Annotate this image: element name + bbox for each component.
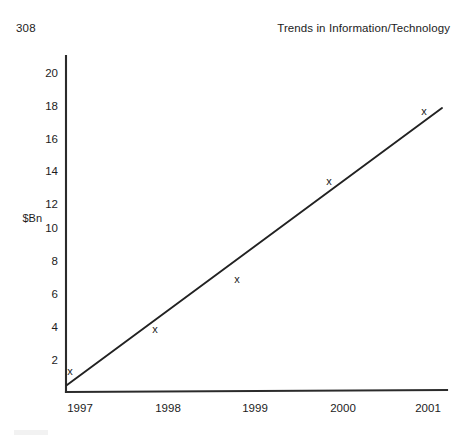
y-tick-label: 12 bbox=[45, 198, 58, 210]
data-point-marker: x bbox=[152, 323, 158, 335]
y-tick-label: 16 bbox=[45, 133, 58, 145]
data-point-marker: x bbox=[234, 273, 240, 285]
x-tick-label: 1998 bbox=[155, 402, 181, 414]
page-canvas: 308 Trends in Information/Technology 20 … bbox=[0, 0, 464, 440]
data-point-marker: x bbox=[421, 105, 427, 117]
y-axis-title: $Bn bbox=[22, 212, 42, 224]
x-tick-label: 1999 bbox=[242, 402, 268, 414]
x-axis-line bbox=[66, 390, 447, 392]
trend-line bbox=[67, 108, 442, 385]
chart-figure: 20 18 16 14 12 10 8 6 4 2 $Bn 1997 1998 … bbox=[0, 0, 464, 440]
x-tick-label: 2001 bbox=[415, 402, 441, 414]
data-point-marker: x bbox=[326, 175, 332, 187]
y-tick-label: 8 bbox=[52, 255, 58, 267]
y-tick-label: 4 bbox=[52, 321, 59, 333]
x-tick-label: 2000 bbox=[330, 402, 356, 414]
x-tick-label: 1997 bbox=[67, 402, 93, 414]
y-tick-label: 20 bbox=[45, 67, 58, 79]
y-tick-label: 10 bbox=[45, 222, 58, 234]
chart-svg: 20 18 16 14 12 10 8 6 4 2 $Bn 1997 1998 … bbox=[0, 0, 464, 440]
scan-artifact bbox=[14, 430, 48, 435]
y-tick-label: 14 bbox=[45, 165, 58, 177]
y-tick-label: 18 bbox=[45, 100, 58, 112]
y-tick-label: 6 bbox=[52, 288, 58, 300]
y-tick-label: 2 bbox=[52, 354, 58, 366]
data-point-marker: x bbox=[67, 365, 73, 377]
